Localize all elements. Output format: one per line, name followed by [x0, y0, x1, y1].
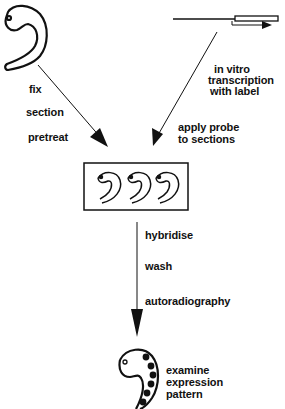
diagram-canvas [0, 0, 285, 409]
step-to-sections: to sections [178, 133, 235, 145]
step-hybridise: hybridise [145, 229, 193, 241]
step-apply-probe: apply probe [178, 121, 239, 133]
result-pattern: pattern [166, 388, 203, 400]
result-expression: expression [166, 376, 223, 388]
result-examine: examine [166, 364, 209, 376]
arrow-slides-to-result [131, 222, 143, 337]
step-with-label: with label [210, 85, 259, 97]
step-autoradiography: autoradiography [145, 295, 230, 307]
step-fix: fix [29, 83, 42, 95]
step-section: section [26, 106, 64, 118]
dna-template-icon [173, 16, 278, 29]
slide-box [84, 163, 188, 210]
step-wash: wash [145, 260, 172, 272]
expression-embryo-icon [119, 350, 158, 409]
embryo-icon [5, 6, 47, 70]
step-pretreat: pretreat [28, 131, 68, 143]
